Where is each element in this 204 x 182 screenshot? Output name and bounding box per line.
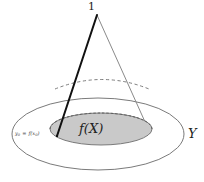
- point-y0-marker: [56, 135, 58, 137]
- point-label: y0 = f(x0): [15, 131, 39, 137]
- point-label-fn-close: ): [37, 130, 39, 136]
- apex-label: 1: [88, 1, 95, 12]
- codomain-label: Y: [188, 127, 197, 140]
- image-set-label: f(X): [79, 122, 103, 135]
- point-label-var-sub: 0: [18, 133, 20, 137]
- cone-back-rim-dashed-arc: [55, 80, 149, 90]
- diagram-canvas: [0, 0, 204, 182]
- point-label-equals: =: [20, 130, 28, 136]
- cone-over-ellipse-figure: 1 f(X) Y y0 = f(x0): [0, 0, 204, 182]
